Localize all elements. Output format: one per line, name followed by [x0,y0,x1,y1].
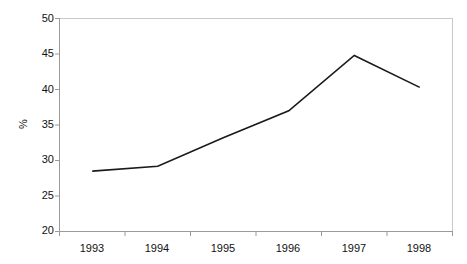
line-chart: % 50 45 40 35 30 25 20 [0,0,467,264]
y-tick-label: 50 [28,13,54,24]
y-axis-ticks [55,19,60,232]
x-tick-label: 1993 [62,243,122,254]
data-series-line [92,55,420,171]
y-tick-label: 25 [28,190,54,201]
y-axis-tick-labels: 50 45 40 35 30 25 20 [28,0,54,264]
x-tick-label: 1997 [324,243,384,254]
x-tick-label: 1998 [389,243,449,254]
x-axis-ticks [60,232,453,237]
x-tick-label: 1996 [258,243,318,254]
x-tick-label: 1994 [127,243,187,254]
plot-area [0,0,467,264]
y-tick-label: 20 [28,225,54,236]
y-tick-label: 45 [28,48,54,59]
x-tick-label: 1995 [193,243,253,254]
y-tick-label: 40 [28,84,54,95]
y-tick-label: 30 [28,154,54,165]
y-tick-label: 35 [28,119,54,130]
